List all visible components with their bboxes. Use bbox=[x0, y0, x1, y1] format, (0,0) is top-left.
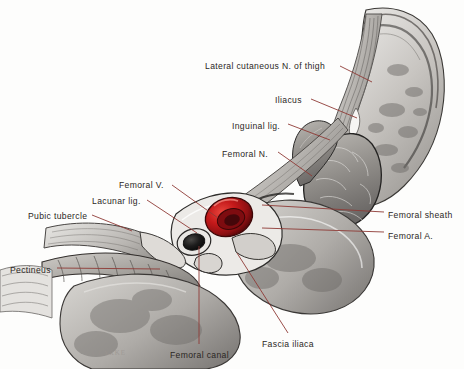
label-femoral-nerve: Femoral N. bbox=[222, 150, 268, 159]
label-femoral-vein: Femoral V. bbox=[119, 181, 164, 190]
femoral-region-illustration bbox=[0, 0, 464, 369]
label-lateral-cutaneous-nerve-of-thigh: Lateral cutaneous N. of thigh bbox=[205, 62, 325, 71]
label-fascia-iliaca: Fascia iliaca bbox=[262, 340, 314, 349]
label-inguinal-ligament: Inguinal lig. bbox=[232, 122, 280, 131]
label-iliacus: Iliacus bbox=[275, 96, 302, 105]
label-femoral-artery: Femoral A. bbox=[388, 232, 433, 241]
anatomy-figure-page: Lateral cutaneous N. of thighIliacusIngu… bbox=[0, 0, 464, 369]
label-lacunar-ligament: Lacunar lig. bbox=[92, 197, 141, 206]
label-femoral-canal: Femoral canal bbox=[170, 351, 229, 360]
label-femoral-sheath: Femoral sheath bbox=[388, 211, 453, 220]
label-pectineus: Pectineus bbox=[10, 266, 51, 275]
artist-signature: CLARKE bbox=[92, 349, 126, 358]
label-pubic-tubercle: Pubic tubercle bbox=[28, 212, 87, 221]
